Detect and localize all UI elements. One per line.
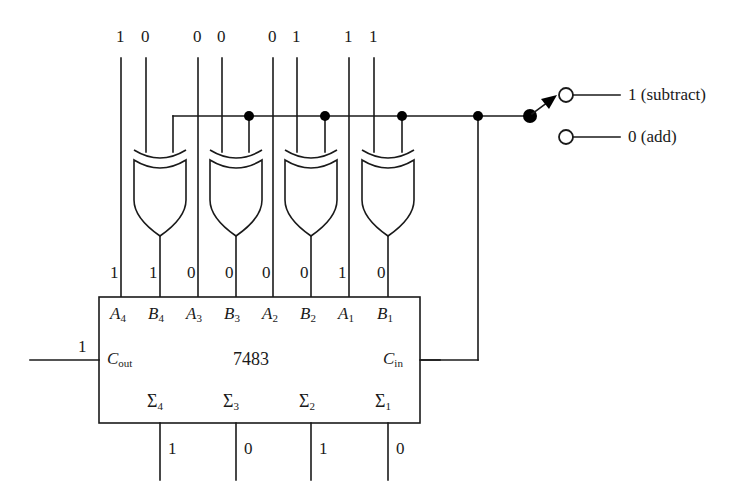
- pin-value-b2: 0: [300, 264, 309, 281]
- chip-pin-sigma-1: Σ1: [375, 392, 391, 410]
- sum-output-lines: [160, 423, 388, 480]
- chip-pin-sigma-2: Σ2: [299, 392, 315, 410]
- xor-gate-3: [285, 150, 337, 297]
- pin-value-b3: 0: [225, 264, 234, 281]
- chip-pin-carry-in: Cin: [383, 350, 403, 367]
- top-value-b2: 1: [292, 28, 301, 45]
- top-value-b4: 0: [141, 28, 150, 45]
- pin-value-b1: 0: [377, 264, 386, 281]
- top-value-b3: 0: [217, 28, 226, 45]
- top-value-a4: 1: [116, 28, 125, 45]
- chip-pin-b2: B2: [300, 305, 316, 322]
- switch-terminal-add[interactable]: [559, 130, 573, 144]
- circuit-schematic-svg: [0, 0, 745, 498]
- chip-pin-sigma-3: Σ3: [223, 392, 239, 410]
- chip-pin-b1: B1: [377, 305, 393, 322]
- switch-blade-arrow[interactable]: [532, 95, 557, 114]
- sum-value-4: 1: [168, 440, 177, 457]
- sum-value-3: 0: [244, 440, 253, 457]
- chip-pin-a3: A3: [186, 305, 202, 322]
- sum-value-1: 0: [396, 440, 405, 457]
- chip-part-number: 7483: [233, 350, 269, 368]
- chip-pin-sigma-4: Σ4: [147, 392, 163, 410]
- xor-gate-1: [134, 150, 186, 297]
- pin-value-a3: 0: [187, 264, 196, 281]
- switch-label-add[interactable]: 0 (add): [628, 128, 677, 145]
- switch-label-subtract[interactable]: 1 (subtract): [628, 86, 706, 103]
- pin-value-b4: 1: [149, 264, 158, 281]
- xor-gate-2: [210, 150, 262, 297]
- carry-out-value: 1: [78, 338, 87, 355]
- chip-pin-carry-out: Cout: [107, 350, 132, 367]
- xor-gate-4: [362, 150, 414, 297]
- chip-pin-a2: A2: [262, 305, 278, 322]
- sum-value-2: 1: [319, 440, 328, 457]
- top-value-b1: 1: [369, 28, 378, 45]
- circuit-diagram-canvas: 1 0 0 0 0 1 1 1 1 1 0 0 0 0 1 0 A4 B4 A3…: [0, 0, 745, 498]
- pin-value-a2: 0: [262, 264, 271, 281]
- chip-pin-b4: B4: [148, 305, 164, 322]
- chip-pin-a4: A4: [110, 305, 126, 322]
- top-value-a3: 0: [193, 28, 202, 45]
- pin-value-a4: 1: [110, 264, 119, 281]
- chip-pin-b3: B3: [224, 305, 240, 322]
- pin-value-a1: 1: [338, 264, 347, 281]
- chip-pin-a1: A1: [338, 305, 354, 322]
- top-value-a2: 0: [268, 28, 277, 45]
- top-value-a1: 1: [344, 28, 353, 45]
- switch-terminal-subtract[interactable]: [559, 88, 573, 102]
- mode-switch-assembly[interactable]: [523, 88, 620, 144]
